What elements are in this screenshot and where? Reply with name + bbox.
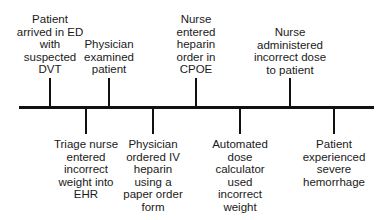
- tick-event-5: [195, 78, 197, 107]
- tick-event-7: [289, 78, 291, 107]
- event-label-5: Nurse entered heparin order in CPOE: [165, 13, 227, 76]
- event-label-4: Physician ordered IV heparin using a pap…: [120, 138, 186, 213]
- event-label-3: Physician examined patient: [78, 38, 140, 76]
- event-label-6: Automated dose calculator used incorrect…: [208, 138, 272, 213]
- event-label-2: Triage nurse entered incorrect weight in…: [50, 138, 122, 201]
- event-label-7: Nurse administered incorrect dose to pat…: [248, 26, 332, 76]
- event-label-8: Patient experienced severe hemorrhage: [300, 138, 368, 188]
- tick-event-4: [152, 108, 154, 134]
- tick-event-6: [239, 108, 241, 134]
- tick-event-3: [108, 78, 110, 107]
- tick-event-8: [333, 108, 335, 134]
- tick-event-2: [85, 108, 87, 134]
- tick-event-1: [49, 78, 51, 107]
